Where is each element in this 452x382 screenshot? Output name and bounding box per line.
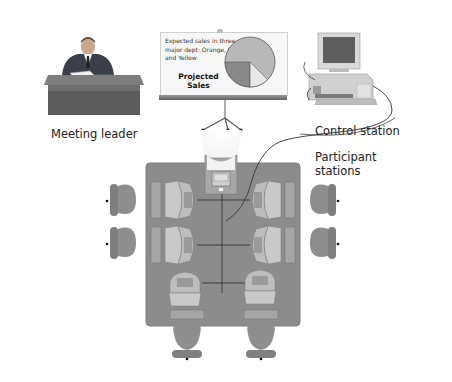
participant-station-bottom-2 — [244, 270, 278, 319]
chair-left-2 — [106, 227, 136, 259]
chair-left-1 — [106, 184, 136, 216]
participant-station-right-2 — [253, 226, 296, 264]
control-cable-loop — [300, 62, 395, 135]
chair-bottom-2 — [246, 320, 276, 360]
participant-station-bottom-1 — [169, 272, 204, 319]
participant-station-left-2 — [151, 226, 194, 264]
projector-icon — [205, 155, 237, 194]
participant-station-left-1 — [151, 181, 194, 219]
chair-right-1 — [310, 184, 339, 216]
conference-room-scene — [0, 0, 452, 382]
participant-station-right-1 — [253, 181, 296, 219]
chair-right-2 — [310, 227, 339, 259]
chair-bottom-1 — [172, 320, 202, 360]
